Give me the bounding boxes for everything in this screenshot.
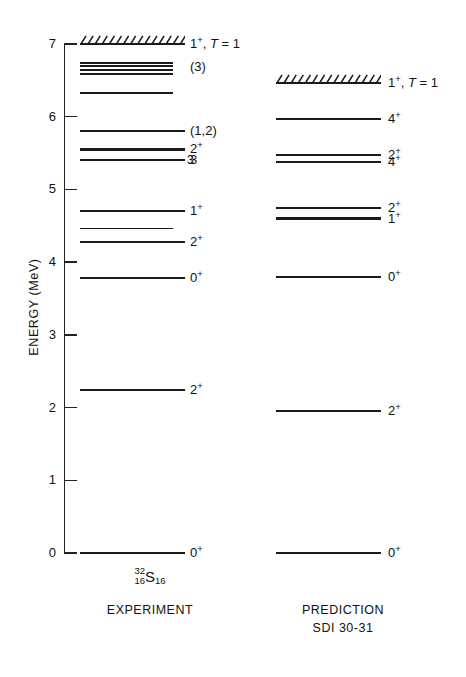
energy-level-line xyxy=(80,210,185,212)
axis-tick-label-5: 5 xyxy=(34,182,56,195)
axis-tick-1 xyxy=(64,480,77,481)
energy-level-line xyxy=(80,228,173,230)
energy-level-line xyxy=(80,65,173,67)
axis-tick-6 xyxy=(64,116,77,117)
energy-axis-line xyxy=(64,44,65,554)
axis-tick-label-2: 2 xyxy=(34,401,56,414)
energy-level-spin-parity-label: 0+ xyxy=(388,270,401,283)
axis-tick-3 xyxy=(64,334,77,335)
energy-level-line xyxy=(80,277,185,279)
axis-tick-label-1: 1 xyxy=(34,473,56,486)
nuclide-mass-charge: 32 16 xyxy=(134,566,145,586)
axis-tick-5 xyxy=(64,189,77,190)
energy-level-line xyxy=(80,62,173,64)
nuclide-symbol: S xyxy=(145,568,155,585)
energy-level-line xyxy=(276,118,381,120)
axis-tick-4 xyxy=(64,261,77,262)
energy-level-line xyxy=(276,276,381,278)
energy-level-band-t1 xyxy=(80,35,185,46)
energy-level-spin-parity-label: (1,2) xyxy=(190,124,217,137)
caption-prediction-line2: SDI 30-31 xyxy=(268,620,418,636)
caption-prediction-line1: PREDICTION xyxy=(268,602,418,618)
energy-level-line xyxy=(276,410,381,412)
energy-level-spin-parity-label: 2+ xyxy=(190,383,203,396)
energy-level-spin-parity-label: 0+ xyxy=(190,271,203,284)
axis-tick-label-7: 7 xyxy=(34,37,56,50)
axis-tick-label-6: 6 xyxy=(34,110,56,123)
energy-level-spin-parity-label: 2+ xyxy=(388,148,401,161)
energy-level-spin-parity-label: 1+ xyxy=(190,204,203,217)
energy-level-spin-parity-label: 1+, T = 1 xyxy=(388,76,438,89)
energy-level-spin-parity-label: 2+ xyxy=(190,142,203,155)
axis-tick-label-0: 0 xyxy=(34,546,56,559)
nuclide-neutron-number: 16 xyxy=(155,575,166,586)
energy-level-line xyxy=(80,148,185,150)
energy-level-spin-parity-label: 2+ xyxy=(388,404,401,417)
energy-level-line xyxy=(276,217,381,219)
energy-level-spin-parity-label: (3) xyxy=(190,60,206,73)
energy-level-line xyxy=(80,130,185,132)
axis-tick-2 xyxy=(64,407,77,408)
energy-level-line xyxy=(276,154,381,156)
energy-level-line xyxy=(80,69,173,71)
energy-level-line xyxy=(80,552,185,554)
energy-level-line xyxy=(80,389,185,391)
energy-level-line xyxy=(80,92,173,94)
energy-level-spin-parity-label: 2+ xyxy=(190,235,203,248)
nuclide-atomic-number: 16 xyxy=(134,576,145,586)
energy-level-line xyxy=(80,73,173,75)
energy-level-spin-parity-label: 1+, T = 1 xyxy=(190,37,240,50)
energy-level-line xyxy=(276,552,381,554)
energy-axis-title: ENERGY (MeV) xyxy=(27,237,41,377)
energy-level-band-t1 xyxy=(276,74,381,85)
level-diagram-figure: 76543210 ENERGY (MeV) 0+2+0+2+1+332+(1,2… xyxy=(0,0,466,677)
energy-level-line xyxy=(276,207,381,209)
energy-level-line xyxy=(276,161,381,163)
nuclide-label: 32 16 S16 xyxy=(80,566,220,588)
energy-level-spin-parity-label: 0+ xyxy=(190,546,203,559)
axis-tick-0 xyxy=(64,552,77,553)
caption-experiment: EXPERIMENT xyxy=(80,602,220,618)
energy-level-spin-parity-label: 0+ xyxy=(388,546,401,559)
axis-tick-7 xyxy=(64,43,77,44)
energy-level-spin-parity-label: 4+ xyxy=(388,112,401,125)
energy-level-line xyxy=(80,159,185,161)
energy-level-spin-parity-label: 2+ xyxy=(388,201,401,214)
energy-level-line xyxy=(80,241,185,243)
